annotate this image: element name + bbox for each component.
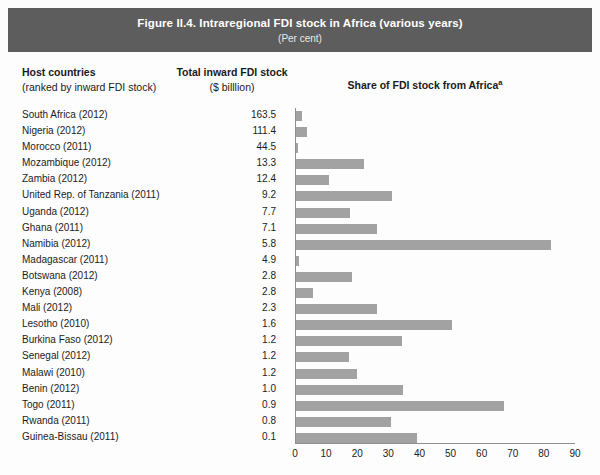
row-stock-value: 13.3 [182,157,276,168]
table-row: Guinea-Bissau (2011)0.1 [0,430,600,446]
x-axis-tick-label: 60 [476,448,487,459]
row-country-label: Uganda (2012) [22,206,89,217]
row-share-bar [296,352,349,362]
row-country-label: Namibia (2012) [22,238,90,249]
row-share-bar [296,401,504,411]
row-share-bar [296,224,377,234]
row-bar-track [296,285,586,301]
row-stock-value: 44.5 [182,141,276,152]
row-bar-track [296,349,586,365]
row-stock-value: 0.1 [182,431,276,442]
row-country-label: Morocco (2011) [22,141,91,152]
row-share-bar [296,256,299,266]
row-country-label: Mali (2012) [22,302,72,313]
row-country-label: Madagascar (2011) [22,254,108,265]
table-row: Kenya (2008)2.8 [0,285,600,301]
row-stock-value: 7.7 [182,206,276,217]
row-stock-value: 1.2 [182,350,276,361]
x-axis-tick-label: 20 [352,448,363,459]
row-stock-value: 9.2 [182,189,276,200]
row-country-label: Malawi (2010) [22,367,85,378]
table-row: Namibia (2012)5.8 [0,237,600,253]
row-stock-value: 0.9 [182,399,276,410]
table-row: Rwanda (2011)0.8 [0,414,600,430]
figure-data-rows: South Africa (2012)163.5Nigeria (2012)11… [0,108,600,446]
column-header-host-countries: Host countries (ranked by inward FDI sto… [22,66,156,93]
figure-title-banner: Figure II.4. Intraregional FDI stock in … [8,8,592,52]
row-bar-track [296,221,586,237]
row-country-label: Mozambique (2012) [22,157,111,168]
column-header-share-of-fdi-stock: Share of FDI stock from Africaa [310,79,540,91]
x-axis-tick-label: 30 [383,448,394,459]
row-bar-track [296,366,586,382]
row-stock-value: 0.8 [182,415,276,426]
row-share-bar [296,272,352,282]
table-row: Benin (2012)1.0 [0,382,600,398]
row-share-bar [296,417,391,427]
table-row: Morocco (2011)44.5 [0,140,600,156]
column-header-total-inward-fdi-stock: Total inward FDI stock ($ billlion) [172,66,292,93]
x-axis-tick-label: 0 [292,448,298,459]
row-country-label: Kenya (2008) [22,286,82,297]
row-country-label: Nigeria (2012) [22,125,85,136]
row-bar-track [296,317,586,333]
row-stock-value: 111.4 [182,125,276,136]
row-stock-value: 2.8 [182,270,276,281]
row-share-bar [296,111,302,121]
row-share-bar [296,369,357,379]
row-share-bar [296,240,551,250]
row-share-bar [296,433,417,443]
row-bar-track [296,124,586,140]
row-bar-track [296,140,586,156]
figure-page: Figure II.4. Intraregional FDI stock in … [0,0,600,475]
x-axis-tick-label: 50 [445,448,456,459]
table-row: Nigeria (2012)111.4 [0,124,600,140]
column-header-share-of-fdi-stock-main: Share of FDI stock from Africaa [310,79,540,91]
table-row: Malawi (2010)1.2 [0,366,600,382]
row-bar-track [296,398,586,414]
column-header-host-countries-sub: (ranked by inward FDI stock) [22,81,156,93]
row-stock-value: 2.3 [182,302,276,313]
row-bar-track [296,108,586,124]
table-row: South Africa (2012)163.5 [0,108,600,124]
row-bar-track [296,188,586,204]
row-bar-track [296,172,586,188]
table-row: United Rep. of Tanzania (2011)9.2 [0,188,600,204]
row-stock-value: 7.1 [182,222,276,233]
x-axis-tick-label: 80 [538,448,549,459]
row-bar-track [296,156,586,172]
row-bar-track [296,269,586,285]
footnote-marker-a: a [498,78,502,87]
row-share-bar [296,175,329,185]
column-header-total-inward-fdi-stock-unit: ($ billlion) [172,81,292,93]
row-country-label: Rwanda (2011) [22,415,90,426]
row-country-label: Zambia (2012) [22,173,87,184]
row-stock-value: 12.4 [182,173,276,184]
table-row: Madagascar (2011)4.9 [0,253,600,269]
row-bar-track [296,205,586,221]
row-country-label: Lesotho (2010) [22,318,89,329]
column-header-share-label: Share of FDI stock from Africa [348,79,499,91]
row-country-label: Ghana (2011) [22,222,83,233]
row-bar-track [296,301,586,317]
table-row: Ghana (2011)7.1 [0,221,600,237]
row-country-label: Togo (2011) [22,399,75,410]
row-country-label: United Rep. of Tanzania (2011) [22,189,160,200]
row-share-bar [296,127,307,137]
row-share-bar [296,208,350,218]
table-row: Senegal (2012)1.2 [0,349,600,365]
table-row: Mali (2012)2.3 [0,301,600,317]
row-stock-value: 5.8 [182,238,276,249]
row-stock-value: 4.9 [182,254,276,265]
x-axis-tick-label: 10 [321,448,332,459]
table-row: Uganda (2012)7.7 [0,205,600,221]
row-bar-track [296,253,586,269]
row-stock-value: 2.8 [182,286,276,297]
row-stock-value: 1.2 [182,334,276,345]
table-row: Burkina Faso (2012)1.2 [0,333,600,349]
figure-title: Figure II.4. Intraregional FDI stock in … [137,16,462,30]
row-country-label: Guinea-Bissau (2011) [22,431,119,442]
row-bar-track [296,430,586,446]
row-stock-value: 163.5 [182,109,276,120]
row-share-bar [296,304,377,314]
